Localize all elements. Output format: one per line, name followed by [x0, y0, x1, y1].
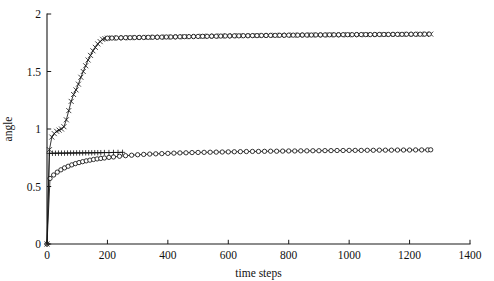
series-markers [44, 150, 125, 247]
x-tick-label: 0 [44, 249, 50, 261]
series-markers [105, 32, 431, 40]
y-tick-label: 1 [35, 123, 41, 135]
chart-figure: 0200400600800100012001400 00.511.52 time… [0, 0, 494, 281]
series-line [47, 152, 123, 244]
angle-vs-time-steps-line-chart: 0200400600800100012001400 00.511.52 time… [0, 0, 494, 281]
x-tick-label: 400 [159, 249, 177, 261]
y-tick-label: 0 [35, 238, 41, 250]
y-tick-label: 1.5 [27, 66, 42, 78]
data-series-lower-plus-series [44, 150, 125, 247]
x-tick-label: 600 [220, 249, 238, 261]
y-tick-label: 2 [35, 8, 41, 20]
x-tick-label: 1200 [398, 249, 421, 261]
x-tick-label: 200 [99, 249, 117, 261]
data-series-upper-circle-series [105, 32, 431, 40]
y-axis-title: angle [2, 117, 15, 142]
x-tick-label: 1400 [459, 249, 482, 261]
data-series-upper-cross-series [45, 32, 434, 247]
series-line [47, 34, 431, 244]
y-axis-tick-labels: 00.511.52 [27, 8, 42, 250]
data-series-lower-circle-series [45, 148, 433, 246]
series-markers [45, 148, 433, 246]
y-tick-label: 0.5 [27, 181, 42, 193]
x-axis-title: time steps [235, 267, 282, 280]
x-tick-label: 1000 [338, 249, 361, 261]
series-markers [45, 32, 434, 247]
x-axis-tick-labels: 0200400600800100012001400 [44, 249, 482, 261]
axes [47, 14, 470, 244]
series-line [47, 150, 431, 244]
plot-area [44, 32, 433, 247]
x-tick-label: 800 [280, 249, 298, 261]
